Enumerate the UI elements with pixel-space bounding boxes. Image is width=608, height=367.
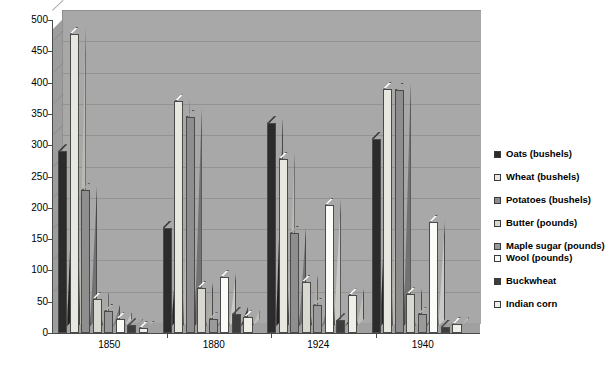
y-axis-tick-label: 150	[4, 234, 48, 244]
gridline-depth-edge	[52, 10, 63, 21]
legend-swatch	[494, 301, 501, 308]
legend-swatch	[494, 278, 501, 285]
legend-item[interactable]: Buckwheat	[494, 275, 606, 286]
legend-swatch	[494, 220, 501, 227]
bar	[197, 288, 206, 333]
legend-item-label: Wool (pounds)	[506, 252, 572, 263]
bar	[174, 101, 183, 333]
legend-item[interactable]: Oats (bushels)	[494, 148, 606, 159]
gridline	[62, 73, 480, 74]
y-axis-labels: 500450400350300250200150100500	[0, 0, 48, 367]
bar-front-face	[290, 233, 299, 333]
legend-item-label: Potatoes (bushels)	[506, 194, 591, 205]
bar	[302, 282, 311, 333]
x-axis-tick-mark	[376, 333, 377, 338]
bar	[406, 294, 415, 333]
bar	[186, 117, 195, 333]
bar	[81, 190, 90, 333]
y-axis-tick-label: 300	[4, 140, 48, 150]
bar-front-face	[383, 89, 392, 333]
bar-front-face	[70, 34, 79, 333]
x-axis-tick-label: 1880	[174, 339, 254, 350]
legend-item-label: Maple sugar (pounds)	[506, 240, 605, 251]
bar	[395, 90, 404, 333]
y-axis-tick-mark	[48, 302, 52, 303]
bar	[267, 123, 276, 333]
x-axis-tick-label: 1940	[383, 339, 463, 350]
y-axis-line	[52, 20, 53, 333]
legend-item[interactable]: Indian corn	[494, 298, 606, 309]
y-axis-tick-mark	[48, 114, 52, 115]
bar	[279, 159, 288, 333]
x-axis-tick-mark	[271, 333, 272, 338]
y-axis-tick-mark	[48, 333, 52, 334]
bar-front-face	[186, 117, 195, 333]
bar	[70, 34, 79, 333]
bar-front-face	[174, 101, 183, 333]
legend-item-label: Butter (pounds)	[506, 217, 577, 228]
bar	[116, 319, 125, 333]
y-axis-tick-mark	[48, 239, 52, 240]
y-axis-tick-mark	[48, 51, 52, 52]
y-axis-tick-label: 100	[4, 265, 48, 275]
bar	[104, 311, 113, 333]
bar	[336, 320, 345, 333]
bar-front-face	[302, 282, 311, 333]
bar	[290, 233, 299, 333]
y-axis-tick-label: 50	[4, 297, 48, 307]
gridline-depth-edge	[52, 73, 63, 84]
y-axis-tick-label: 0	[4, 328, 48, 338]
legend-item[interactable]: Wheat (bushels)	[494, 171, 606, 182]
legend-swatch	[494, 255, 501, 262]
legend-item[interactable]: Butter (pounds)	[494, 217, 606, 228]
y-axis-tick-mark	[48, 208, 52, 209]
gridline	[62, 10, 480, 11]
bar-front-face	[313, 305, 322, 333]
bar-front-face	[325, 205, 334, 333]
bar	[383, 89, 392, 333]
bar	[209, 319, 218, 333]
bar-front-face	[232, 314, 241, 333]
bar-front-face	[104, 311, 113, 333]
legend-swatch	[494, 197, 501, 204]
bar	[93, 299, 102, 333]
bar-front-face	[93, 299, 102, 333]
bar-front-face	[406, 294, 415, 333]
bar	[313, 305, 322, 333]
gridline	[62, 41, 480, 42]
bar-front-face	[429, 222, 438, 333]
bar	[127, 325, 136, 333]
bar	[232, 314, 241, 333]
bar	[418, 314, 427, 333]
legend-swatch	[494, 151, 501, 158]
chart-screenshot: 500450400350300250200150100500 185018801…	[0, 0, 608, 367]
bar	[220, 277, 229, 333]
bar-front-face	[395, 90, 404, 333]
bar-front-face	[372, 139, 381, 333]
legend-item[interactable]: Potatoes (bushels)	[494, 194, 606, 205]
bar	[372, 139, 381, 333]
legend-swatch	[494, 174, 501, 181]
y-axis-tick-label: 350	[4, 109, 48, 119]
legend-item-label: Indian corn	[506, 298, 557, 309]
legend-item[interactable]: Wool (pounds)	[494, 252, 606, 263]
y-axis-tick-mark	[48, 270, 52, 271]
bar-front-face	[163, 228, 172, 333]
legend-item[interactable]: Maple sugar (pounds)	[494, 240, 606, 251]
gridline-depth-edge	[52, 135, 63, 146]
x-axis-tick-mark	[167, 333, 168, 338]
bar	[348, 295, 357, 333]
bar	[325, 205, 334, 333]
bar-front-face	[81, 190, 90, 333]
y-axis-tick-label: 450	[4, 46, 48, 56]
bar	[429, 222, 438, 333]
y-axis-tick-mark	[48, 83, 52, 84]
bar-front-face	[209, 319, 218, 333]
bar-front-face	[279, 159, 288, 333]
bar-front-face	[116, 319, 125, 333]
bar-front-face	[441, 327, 450, 333]
legend-swatch	[494, 243, 501, 250]
bar	[441, 327, 450, 333]
gridline-depth-edge	[52, 104, 63, 115]
bar-front-face	[348, 295, 357, 333]
